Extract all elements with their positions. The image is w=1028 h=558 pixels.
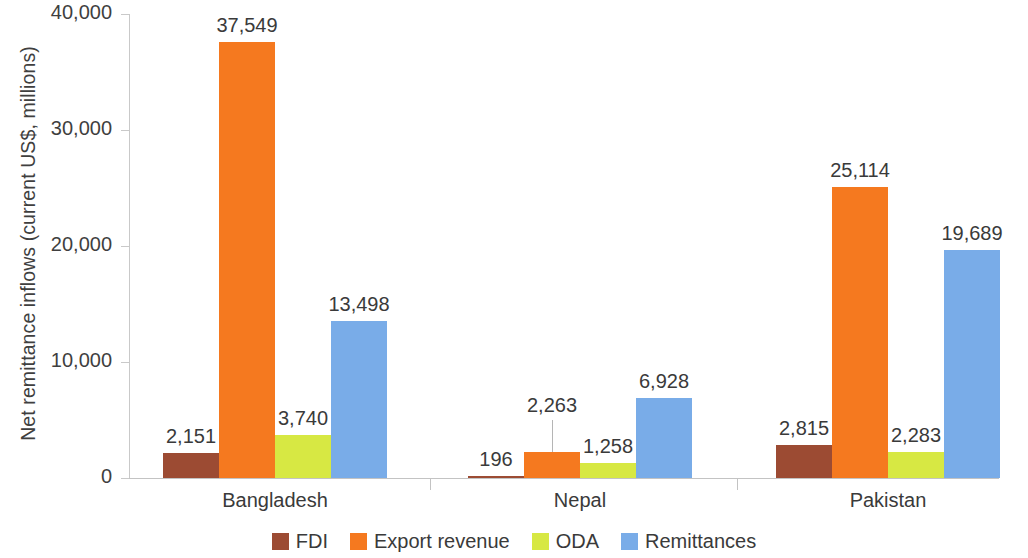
legend-item[interactable]: Remittances	[621, 530, 756, 553]
bar	[636, 398, 692, 478]
y-axis-tick-labels: 40,00030,00020,00010,0000	[0, 0, 112, 558]
bar	[944, 250, 1000, 478]
y-axis-tick-label: 20,000	[7, 233, 112, 256]
legend-label: Export revenue	[374, 530, 510, 553]
bar-value-label: 2,151	[166, 425, 216, 448]
category-separator-tick	[430, 479, 431, 490]
bar-chart: Net remittance inflows (current US$, mil…	[0, 0, 1028, 558]
legend-label: ODA	[556, 530, 599, 553]
legend-item[interactable]: Export revenue	[350, 530, 510, 553]
y-axis-tick-label: 30,000	[7, 117, 112, 140]
bar-value-label: 19,689	[941, 222, 1002, 245]
bar-value-label: 196	[479, 448, 512, 471]
y-axis-tick	[121, 362, 129, 363]
bar	[468, 476, 524, 478]
bar-value-label: 6,928	[639, 370, 689, 393]
bar-value-label: 3,740	[278, 407, 328, 430]
y-axis-tick-label: 40,000	[7, 1, 112, 24]
bar	[524, 452, 580, 478]
y-axis-tick	[121, 478, 129, 479]
bar-value-label: 2,815	[779, 417, 829, 440]
bar	[163, 453, 219, 478]
x-axis-category-label: Nepal	[554, 489, 606, 512]
bar	[219, 42, 275, 478]
y-axis-tick-label: 10,000	[7, 349, 112, 372]
bar-value-label: 2,283	[891, 424, 941, 447]
bar	[888, 452, 944, 478]
bar	[580, 463, 636, 478]
x-axis-category-label: Pakistan	[850, 489, 927, 512]
bar	[776, 445, 832, 478]
y-axis-tick	[121, 14, 129, 15]
chart-legend: FDIExport revenueODARemittances	[0, 530, 1028, 553]
legend-swatch-icon	[350, 533, 367, 550]
x-axis-line	[123, 478, 999, 479]
bar-value-label: 25,114	[830, 159, 890, 182]
bar-value-label: 37,549	[216, 14, 277, 37]
label-leader-line	[552, 420, 553, 452]
legend-label: FDI	[296, 530, 328, 553]
bar	[331, 321, 387, 478]
bar-value-label: 13,498	[328, 293, 389, 316]
legend-swatch-icon	[272, 533, 289, 550]
legend-swatch-icon	[621, 533, 638, 550]
bar-value-label: 2,263	[527, 394, 577, 417]
y-axis-tick	[121, 246, 129, 247]
legend-label: Remittances	[645, 530, 756, 553]
legend-item[interactable]: FDI	[272, 530, 328, 553]
y-axis-tick-label: 0	[7, 465, 112, 488]
bar-value-label: 1,258	[583, 435, 633, 458]
bar	[832, 187, 888, 478]
y-axis-tick	[121, 130, 129, 131]
category-separator-tick	[737, 479, 738, 490]
legend-item[interactable]: ODA	[532, 530, 599, 553]
bar	[275, 435, 331, 478]
legend-swatch-icon	[532, 533, 549, 550]
y-axis-line	[129, 14, 130, 479]
x-axis-category-label: Bangladesh	[222, 489, 328, 512]
